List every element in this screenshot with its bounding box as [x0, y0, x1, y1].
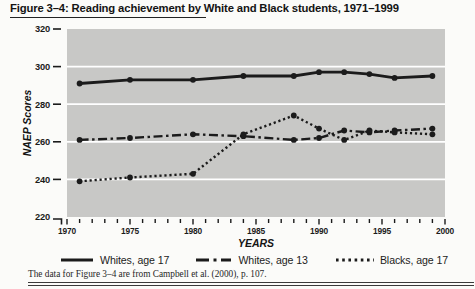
bottom-double-rule [28, 282, 474, 286]
svg-text:220: 220 [35, 212, 50, 222]
dash-dot-line-sample-icon [195, 256, 232, 264]
reading-achievement-chart: 2202402602803003201970197519801985199019… [0, 0, 475, 252]
svg-text:260: 260 [35, 137, 50, 147]
svg-text:240: 240 [35, 175, 50, 185]
legend-label-whites-13: Whites, age 13 [238, 254, 307, 266]
svg-text:1985: 1985 [247, 226, 265, 236]
source-note: The data for Figure 3–4 are from Campbel… [28, 269, 267, 279]
book-page: Figure 3–4: Reading achievement by White… [0, 0, 475, 289]
legend-label-whites-17: Whites, age 17 [100, 254, 169, 266]
svg-text:320: 320 [35, 24, 50, 34]
legend-item-whites-17: Whites, age 17 [60, 254, 169, 266]
svg-text:1970: 1970 [58, 226, 76, 236]
legend-item-whites-13: Whites, age 13 [195, 254, 307, 266]
svg-text:NAEP Scores: NAEP Scores [21, 89, 33, 156]
svg-text:1990: 1990 [310, 226, 328, 236]
svg-text:300: 300 [35, 62, 50, 72]
svg-text:1975: 1975 [121, 226, 139, 236]
dotted-line-sample-icon [334, 256, 374, 264]
solid-line-sample-icon [60, 256, 94, 264]
legend-label-blacks-17: Blacks, age 17 [380, 254, 448, 266]
svg-text:1980: 1980 [184, 226, 202, 236]
svg-text:2000: 2000 [436, 226, 454, 236]
svg-text:1995: 1995 [373, 226, 391, 236]
svg-text:YEARS: YEARS [238, 237, 274, 249]
chart-legend: Whites, age 17 Whites, age 13 Blacks, ag… [60, 252, 448, 267]
svg-text:280: 280 [35, 100, 50, 110]
legend-item-blacks-17: Blacks, age 17 [334, 254, 448, 266]
